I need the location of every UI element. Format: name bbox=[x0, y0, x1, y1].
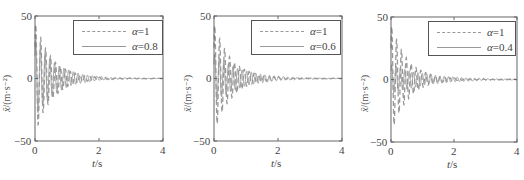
y-axis-symbol: ẍ bbox=[1, 108, 12, 112]
y-tick-neg50: −50 bbox=[370, 137, 387, 148]
x-axis-label: t/s bbox=[92, 158, 102, 169]
legend-label: α=0.4 bbox=[487, 41, 513, 53]
chart-panel-alpha-0-4: 50 0 −50 0 2 4 t/s ẍ/(m·s⁻²) α=1 α=0.4 bbox=[356, 0, 524, 180]
solid-line-swatch bbox=[437, 47, 481, 48]
y-tick-50: 50 bbox=[21, 11, 32, 22]
x-tick-4: 4 bbox=[160, 145, 166, 156]
x-axis-unit: /s bbox=[95, 157, 102, 169]
y-axis-label: ẍ/(m·s⁻²) bbox=[2, 75, 12, 112]
dashed-line-swatch bbox=[260, 31, 304, 32]
y-axis-label: ẍ/(m·s⁻²) bbox=[360, 75, 370, 112]
x-tick-4: 4 bbox=[339, 145, 345, 156]
dashed-line-swatch bbox=[437, 32, 481, 33]
legend-label: α=1 bbox=[132, 25, 150, 37]
x-tick-2: 2 bbox=[96, 145, 102, 156]
chart-panel-alpha-0-8: 50 0 −50 0 2 4 t/s ẍ/(m·s⁻²) α=1 α=0.8 bbox=[0, 0, 175, 180]
legend: α=1 α=0.6 bbox=[251, 20, 341, 55]
y-tick-0: 0 bbox=[206, 73, 212, 84]
legend-item-alpha-0-8: α=0.8 bbox=[74, 40, 162, 52]
y-tick-50: 50 bbox=[200, 11, 211, 22]
y-axis-unit: /(m·s⁻²) bbox=[182, 75, 193, 108]
legend: α=1 α=0.8 bbox=[73, 20, 163, 55]
legend-label: α=0.6 bbox=[310, 40, 336, 52]
x-tick-2: 2 bbox=[451, 146, 457, 157]
legend-item-alpha-1: α=1 bbox=[252, 25, 340, 37]
x-axis-label: t/s bbox=[447, 159, 457, 170]
legend: α=1 α=0.4 bbox=[428, 21, 516, 56]
legend-item-alpha-1: α=1 bbox=[429, 26, 515, 38]
legend-item-alpha-0-4: α=0.4 bbox=[429, 41, 515, 53]
chart-panel-alpha-0-6: 50 0 −50 0 2 4 t/s ẍ/(m·s⁻²) α=1 α=0.6 bbox=[179, 0, 354, 180]
x-tick-0: 0 bbox=[32, 145, 38, 156]
x-tick-0: 0 bbox=[211, 145, 217, 156]
y-axis-symbol: ẍ bbox=[182, 108, 193, 112]
y-axis-label: ẍ/(m·s⁻²) bbox=[183, 75, 193, 112]
y-tick-neg50: −50 bbox=[193, 136, 210, 147]
x-axis-label: t/s bbox=[271, 158, 281, 169]
x-tick-2: 2 bbox=[275, 145, 281, 156]
x-tick-4: 4 bbox=[514, 146, 520, 157]
x-axis-unit: /s bbox=[450, 158, 457, 170]
legend-label: α=1 bbox=[310, 25, 328, 37]
legend-item-alpha-1: α=1 bbox=[74, 25, 162, 37]
legend-label: α=1 bbox=[487, 26, 505, 38]
dashed-line-swatch bbox=[82, 31, 126, 32]
y-tick-neg50: −50 bbox=[14, 136, 31, 147]
y-axis-symbol: ẍ bbox=[359, 108, 370, 112]
x-tick-0: 0 bbox=[388, 146, 394, 157]
solid-line-swatch bbox=[260, 46, 304, 47]
y-axis-unit: /(m·s⁻²) bbox=[1, 75, 12, 108]
x-axis-unit: /s bbox=[274, 157, 281, 169]
solid-line-swatch bbox=[82, 46, 126, 47]
legend-label: α=0.8 bbox=[132, 40, 158, 52]
legend-item-alpha-0-6: α=0.6 bbox=[252, 40, 340, 52]
y-tick-0: 0 bbox=[27, 73, 33, 84]
y-tick-50: 50 bbox=[377, 12, 388, 23]
y-axis-unit: /(m·s⁻²) bbox=[359, 75, 370, 108]
y-tick-0: 0 bbox=[383, 74, 389, 85]
